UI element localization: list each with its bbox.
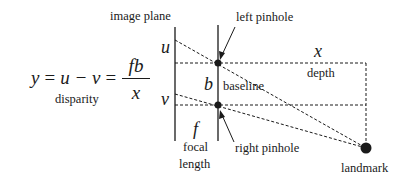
left-pinhole-arrowhead [219,51,225,60]
left-ray-dashed [175,40,366,148]
eq-fraction: fb x [122,55,150,104]
disparity-caption: disparity [55,93,99,106]
right-pinhole-dot [215,102,222,109]
f-label: f [193,120,198,138]
u-label: u [161,38,170,56]
right-pinhole-label: right pinhole [235,142,299,155]
right-pinhole-arrow [222,115,234,142]
eq-equals-2: = [100,67,121,88]
disparity-equation: y=u − v= [31,68,121,87]
right-pinhole-arrowhead [219,110,225,119]
left-pinhole-arrow [222,27,235,55]
v-label: v [161,90,169,108]
eq-middle: u − v [60,67,100,88]
eq-fraction-bar [122,78,150,79]
eq-denominator: x [122,82,150,104]
eq-equals-1: = [39,67,60,88]
focal-label: focal [183,141,208,154]
b-label: b [204,75,213,93]
eq-numerator: fb [122,55,150,77]
landmark-dot [361,143,372,154]
left-pinhole-dot [215,60,222,67]
depth-label: depth [307,67,335,80]
length-label: length [179,158,210,171]
x-label: x [314,42,322,60]
baseline-label: baseline [223,80,264,93]
landmark-label: landmark [341,162,388,175]
left-pinhole-label: left pinhole [236,11,293,24]
image-plane-label: image plane [110,10,171,23]
